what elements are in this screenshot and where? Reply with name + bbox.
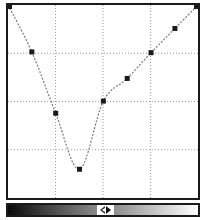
arrow-right-icon [106, 206, 111, 214]
curve-canvas[interactable] [6, 3, 200, 200]
gradient-flip-button[interactable] [97, 205, 114, 215]
curve-point[interactable] [77, 167, 82, 172]
curve-point[interactable] [101, 99, 106, 104]
curve-graph[interactable] [6, 3, 200, 200]
curve-point[interactable] [149, 50, 154, 55]
gradient-dark-segment [8, 205, 97, 215]
output-gradient-bar [6, 203, 200, 217]
arrow-left-icon [100, 206, 105, 214]
gradient-light-segment [114, 205, 198, 215]
curve-point[interactable] [172, 26, 177, 31]
curve-point[interactable] [29, 49, 34, 54]
curve-point[interactable] [125, 76, 130, 81]
curve-point[interactable] [53, 111, 58, 116]
